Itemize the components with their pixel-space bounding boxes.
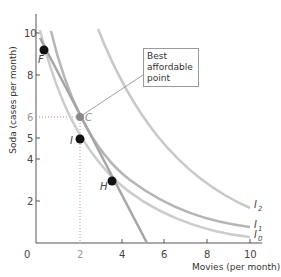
point-h (108, 177, 117, 186)
svg-text:4: 4 (119, 249, 125, 260)
callout-leader (81, 75, 143, 116)
svg-text:4: 4 (27, 154, 33, 165)
point-h-label: H (100, 181, 108, 192)
indifference-chart: 10 8 6 5 4 2 0 2 4 6 8 10 Movies (per mo… (0, 0, 281, 277)
svg-text:I: I (254, 229, 257, 240)
svg-text:8: 8 (204, 249, 210, 260)
best-affordable-point-callout: Best affordable point (143, 48, 199, 87)
svg-text:2: 2 (27, 196, 33, 207)
svg-text:0: 0 (258, 235, 263, 243)
svg-text:6: 6 (27, 112, 33, 123)
svg-text:6: 6 (161, 249, 167, 260)
point-i (76, 135, 85, 144)
callout-line-3: point (147, 73, 195, 84)
point-c-label: C (85, 112, 92, 123)
callout-line-2: affordable (147, 62, 195, 73)
svg-text:8: 8 (27, 70, 33, 81)
point-i-label: I (70, 135, 73, 146)
y-axis-label: Soda (cases per month) (8, 46, 18, 154)
callout-line-1: Best (147, 51, 195, 62)
svg-text:10: 10 (244, 249, 257, 260)
svg-text:I: I (254, 199, 257, 210)
point-f-label: F (38, 54, 44, 65)
svg-text:5: 5 (27, 133, 33, 144)
x-ticks: 0 2 4 6 8 10 (24, 239, 257, 260)
svg-text:2: 2 (77, 249, 83, 260)
svg-text:0: 0 (24, 249, 30, 260)
budget-line (40, 38, 147, 243)
point-c (76, 113, 84, 121)
curve-label-i2: I 2 (254, 199, 263, 213)
svg-text:10: 10 (24, 28, 37, 39)
x-axis-label: Movies (per month) (192, 262, 280, 272)
svg-text:1: 1 (258, 225, 262, 233)
svg-text:2: 2 (258, 205, 263, 213)
